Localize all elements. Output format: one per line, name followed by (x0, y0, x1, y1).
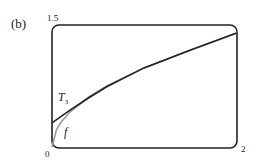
t3-label: T3 (58, 90, 68, 106)
plot-area (0, 0, 256, 163)
f-label: f (64, 125, 67, 140)
t3-label-sub: 3 (65, 98, 69, 106)
t3-curve (52, 33, 236, 123)
t3-label-main: T (58, 90, 65, 104)
f-curve (52, 33, 236, 147)
